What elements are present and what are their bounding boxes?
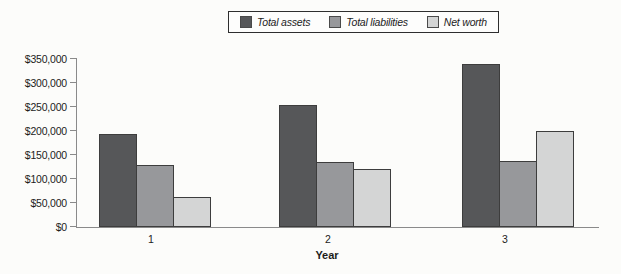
x-axis-category-label: 3 (485, 233, 525, 245)
legend-item-total-assets: Total assets (240, 16, 310, 28)
bar-total-liabilities-year-1 (136, 165, 174, 227)
bar-total-liabilities-year-3 (499, 161, 537, 227)
bar-group-year-3 (462, 59, 574, 227)
legend-item-total-liabilities: Total liabilities (329, 16, 408, 28)
legend-item-net-worth: Net worth (427, 16, 487, 28)
bar-group-year-1 (99, 59, 211, 227)
y-axis-tick-label: $0 (0, 221, 67, 233)
total-liabilities-swatch-icon (329, 16, 341, 28)
y-axis-tick (70, 178, 77, 179)
bar-total-liabilities-year-2 (316, 162, 354, 227)
legend-label-net-worth: Net worth (444, 16, 487, 28)
x-axis-category-label: 2 (308, 233, 348, 245)
net-worth-swatch-icon (427, 16, 439, 28)
bar-net-worth-year-2 (353, 169, 391, 227)
legend-label-total-liabilities: Total liabilities (346, 16, 408, 28)
y-axis-tick (70, 202, 77, 203)
y-axis-tick-label: $150,000 (0, 149, 67, 161)
plot-area: $0$50,000$100,000$150,000$200,000$250,00… (76, 59, 599, 228)
y-axis-tick (70, 58, 77, 59)
net-worth-bar-chart: Total assets Total liabilities Net worth… (0, 0, 621, 274)
y-axis-tick-label: $350,000 (0, 53, 67, 65)
y-axis-tick (70, 130, 77, 131)
bar-net-worth-year-3 (536, 131, 574, 227)
y-axis-tick (70, 82, 77, 83)
y-axis-tick-label: $50,000 (0, 197, 67, 209)
bar-total-assets-year-2 (279, 105, 317, 227)
y-axis-tick-label: $100,000 (0, 173, 67, 185)
y-axis-tick (70, 226, 77, 227)
x-axis-title: Year (66, 249, 588, 261)
y-axis-tick-label: $250,000 (0, 101, 67, 113)
y-axis-tick-label: $300,000 (0, 77, 67, 89)
y-axis-tick-label: $200,000 (0, 125, 67, 137)
bar-total-assets-year-3 (462, 64, 500, 227)
chart-legend: Total assets Total liabilities Net worth (228, 11, 499, 33)
bar-net-worth-year-1 (173, 197, 211, 227)
y-axis-tick (70, 106, 77, 107)
bar-group-year-2 (279, 59, 391, 227)
total-assets-swatch-icon (240, 16, 252, 28)
x-axis-category-label: 1 (131, 233, 171, 245)
legend-label-total-assets: Total assets (257, 16, 310, 28)
bar-total-assets-year-1 (99, 134, 137, 227)
y-axis-tick (70, 154, 77, 155)
